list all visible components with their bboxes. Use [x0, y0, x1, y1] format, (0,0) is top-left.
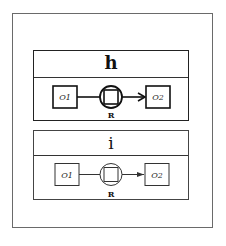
relation-square [104, 90, 118, 104]
node-o1-label: O1 [61, 171, 73, 180]
panel-h-diagram: O1 O2 R [34, 51, 190, 122]
node-o1-label: O1 [59, 93, 71, 102]
panel-i: i O1 O2 R [33, 130, 189, 200]
panel-i-diagram: O1 O2 R [34, 131, 190, 202]
relation-label: R [108, 189, 115, 199]
panel-h: h O1 O2 R [33, 50, 189, 121]
relation-square [104, 168, 118, 182]
node-o2-label: O2 [151, 171, 163, 180]
relation-label: R [108, 110, 115, 120]
arrow-icon [137, 172, 144, 177]
node-o2-label: O2 [152, 93, 164, 102]
